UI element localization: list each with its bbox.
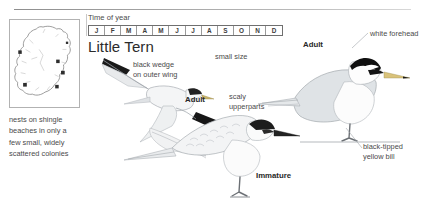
label-small-size: small size xyxy=(215,52,247,62)
flying-adult-tail xyxy=(124,97,150,104)
month-cell-apr: A xyxy=(137,26,153,35)
immature-legs xyxy=(232,177,247,196)
column-divider xyxy=(86,14,87,36)
field-guide-plate: nests on shingle beaches in only a few s… xyxy=(0,0,425,208)
scaly-hatching xyxy=(186,124,240,146)
month-cell-aug: A xyxy=(202,26,218,35)
immature-head xyxy=(246,120,274,140)
month-cell-dec: D xyxy=(266,26,282,35)
map-colony-dots xyxy=(18,42,68,89)
white-forehead-patch xyxy=(362,65,379,70)
bill-black-tip xyxy=(403,76,410,78)
month-cell-may: M xyxy=(153,26,169,35)
immature-illustration xyxy=(124,115,300,197)
map-caption-line-4: scattered colonies xyxy=(9,148,91,159)
header-divider-rule xyxy=(14,9,411,10)
immature-breast xyxy=(224,140,261,176)
month-cell-nov: N xyxy=(250,26,266,35)
flying-adult-cap xyxy=(188,88,202,95)
immature-body xyxy=(172,115,260,155)
label-adult-standing: Adult xyxy=(303,40,323,50)
immature-crown xyxy=(249,119,275,130)
label-black-wedge-line-1: black wedge xyxy=(133,60,177,70)
ireland-map-svg xyxy=(10,20,79,107)
label-black-wedge: black wedge on outer wing xyxy=(133,60,177,81)
standing-adult-bill xyxy=(384,72,410,78)
map-caption-line-2: beaches in only a xyxy=(9,125,91,136)
label-black-tipped-yellow-bill: black-tipped yellow bill xyxy=(363,142,403,163)
label-bill-line-1: black-tipped xyxy=(363,142,403,152)
lower-wing-black-wedge xyxy=(192,112,216,128)
label-bill-line-2: yellow bill xyxy=(363,152,403,162)
month-cell-mar: M xyxy=(121,26,137,35)
label-scaly-line-1: scaly xyxy=(229,92,264,102)
flying-adult-far-wing xyxy=(150,128,206,156)
standing-adult-body xyxy=(294,70,376,122)
label-immature: Immature xyxy=(256,171,291,181)
standing-adult-illustration xyxy=(258,58,410,142)
label-scaly-upperparts: scaly upperparts xyxy=(229,92,264,113)
standing-adult-legs xyxy=(342,124,357,141)
time-of-year-label: Time of year xyxy=(88,13,130,22)
distribution-map-panel xyxy=(9,19,80,108)
month-cell-jul: J xyxy=(186,26,202,35)
label-black-wedge-line-2: on outer wing xyxy=(133,70,177,80)
map-caption: nests on shingle beaches in only a few s… xyxy=(9,114,91,160)
upper-wing-black-wedge xyxy=(102,58,130,75)
map-caption-line-3: few small, widely xyxy=(9,137,91,148)
lower-wing-pale xyxy=(140,106,177,142)
month-cell-jun: J xyxy=(169,26,185,35)
label-scaly-line-2: upperparts xyxy=(229,102,264,112)
month-cell-oct: O xyxy=(234,26,250,35)
month-cell-feb: F xyxy=(105,26,121,35)
immature-wingtip xyxy=(124,148,176,160)
standing-adult-head xyxy=(349,60,381,84)
time-of-year-bar: J F M A M J J A S O N D xyxy=(88,25,283,36)
month-cell-sep: S xyxy=(218,26,234,35)
map-caption-line-1: nests on shingle xyxy=(9,114,91,125)
standing-adult-black-cap xyxy=(350,58,381,72)
label-adult-flying: Adult xyxy=(185,95,205,105)
page-title: Little Tern xyxy=(88,38,154,55)
immature-bill xyxy=(274,130,300,136)
standing-adult-eye-stripe xyxy=(368,69,384,75)
month-cell-jan: J xyxy=(89,26,105,35)
leader-lines xyxy=(346,33,368,148)
standing-adult-breast xyxy=(334,82,375,124)
label-white-forehead: white forehead xyxy=(370,29,418,39)
